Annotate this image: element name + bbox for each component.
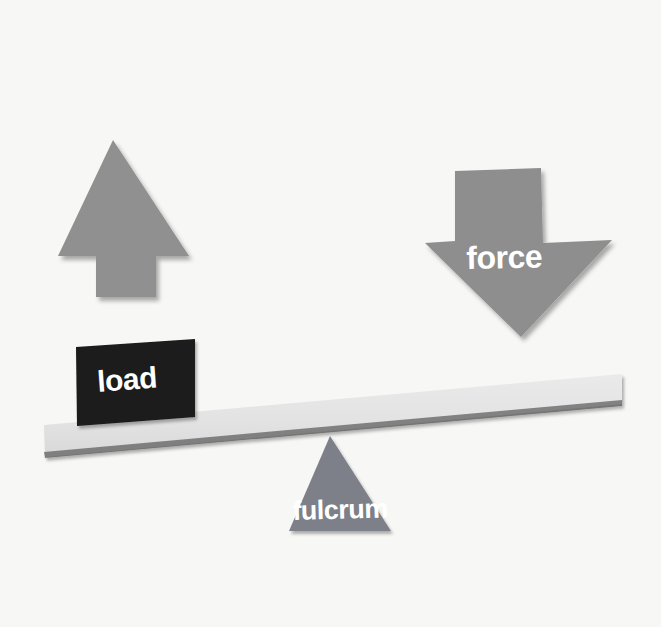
lever-diagram-svg <box>0 0 661 627</box>
arrow-up-icon <box>58 140 189 297</box>
lever-diagram-canvas: load force fulcrum <box>0 0 661 627</box>
arrow-down-icon <box>425 168 612 337</box>
square-block-icon <box>76 339 195 426</box>
triangle-icon <box>289 436 391 531</box>
